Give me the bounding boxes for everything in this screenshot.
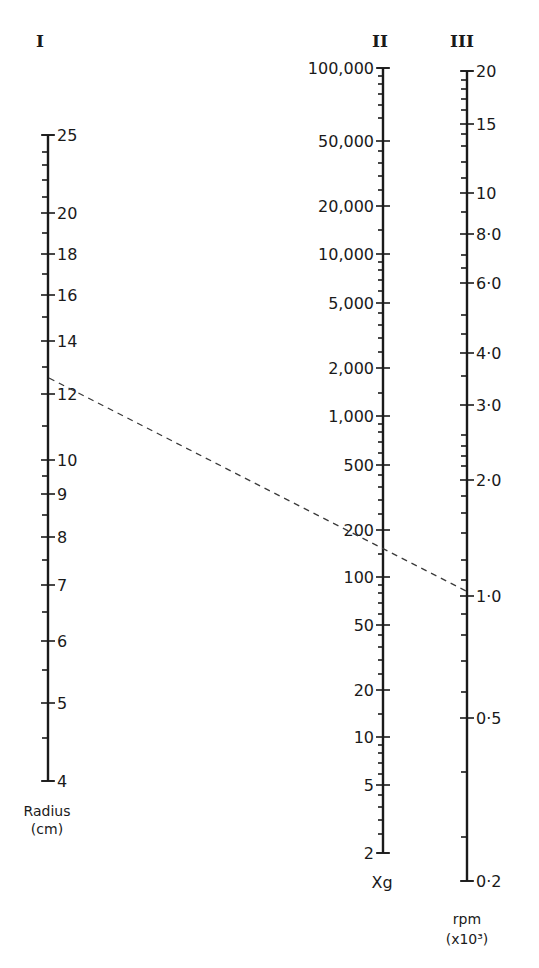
example-dashed-line <box>49 378 466 591</box>
axis-II-name: Xg <box>371 873 392 892</box>
tick-label: 50 <box>354 616 374 635</box>
tick-label: 5 <box>364 776 374 795</box>
tick-label: 25 <box>57 126 77 145</box>
axis-II: 100,00050,00020,00010,0005,0002,0001,000… <box>308 59 390 863</box>
tick-label: 3·0 <box>476 396 501 415</box>
axes-layer: 25201816141210987654100,00050,00020,0001… <box>41 59 501 891</box>
tick-label: 8·0 <box>476 225 501 244</box>
tick-label: 2·0 <box>476 471 501 490</box>
tick-label: 4·0 <box>476 344 501 363</box>
tick-label: 6·0 <box>476 274 501 293</box>
tick-label: 10 <box>476 184 496 203</box>
axis-III-name: rpm <box>453 911 481 927</box>
tick-label: 500 <box>343 456 374 475</box>
axis-I-roman-label: I <box>36 31 44 51</box>
tick-label: 10 <box>57 451 77 470</box>
tick-label: 2,000 <box>328 359 374 378</box>
tick-label: 20 <box>57 204 77 223</box>
tick-label: 1·0 <box>476 587 501 606</box>
tick-label: 100,000 <box>308 59 374 78</box>
axis-I: 25201816141210987654 <box>41 126 77 791</box>
tick-label: 15 <box>476 115 496 134</box>
tick-label: 20,000 <box>318 197 374 216</box>
centrifuge-nomogram: 25201816141210987654100,00050,00020,0001… <box>0 0 539 968</box>
tick-label: 8 <box>57 528 67 547</box>
axis-II-roman-label: II <box>372 31 388 51</box>
tick-label: 50,000 <box>318 132 374 151</box>
tick-label: 14 <box>57 332 77 351</box>
tick-label: 12 <box>57 385 77 404</box>
tick-label: 20 <box>476 62 496 81</box>
tick-label: 7 <box>57 576 67 595</box>
tick-label: 16 <box>57 286 77 305</box>
tick-label: 10 <box>354 728 374 747</box>
tick-label: 4 <box>57 772 67 791</box>
tick-label: 20 <box>354 681 374 700</box>
tick-label: 18 <box>57 245 77 264</box>
tick-label: 0·5 <box>476 709 501 728</box>
tick-label: 9 <box>57 485 67 504</box>
tick-label: 2 <box>364 844 374 863</box>
axis-III-roman-label: III <box>450 31 474 51</box>
axis-I-name: Radius <box>24 803 71 819</box>
axis-III: 2015108·06·04·03·02·01·00·50·2 <box>460 62 501 891</box>
tick-label: 10,000 <box>318 245 374 264</box>
axis-III-unit: (x10³) <box>446 931 489 947</box>
axis-I-unit: (cm) <box>31 821 63 837</box>
tick-label: 100 <box>343 568 374 587</box>
tick-label: 6 <box>57 632 67 651</box>
tick-label: 5,000 <box>328 294 374 313</box>
tick-label: 1,000 <box>328 407 374 426</box>
tick-label: 0·2 <box>476 872 501 891</box>
tick-label: 5 <box>57 694 67 713</box>
